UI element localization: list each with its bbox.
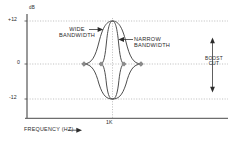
arrowhead-frequency [76,128,82,133]
arrowhead-boost-up [210,38,215,44]
annotation-narrow-bandwidth: NARROW BANDWIDTH [134,36,170,48]
annotation-wide-bandwidth: WIDE BANDWIDTH [59,26,95,38]
y-tick-label-minus12: -12 [9,95,17,101]
eq-response-diagram: dB +12 0 -12 1K FREQUENCY (HZ) WIDE BAND… [0,0,233,141]
y-axis-unit-label: dB [29,6,35,11]
node-marker-wide-left [82,62,87,67]
arrowhead-cut-down [210,87,215,93]
node-marker-wide-right [139,62,144,67]
x-axis-label: FREQUENCY (HZ) [24,127,74,133]
annotation-boost-cut: BOOST CUT [205,56,223,66]
y-tick-label-zero: 0 [17,60,20,66]
x-tick-label-1k: 1K [106,120,113,126]
arrowhead-narrow [118,37,124,42]
plot-canvas [0,0,233,141]
y-tick-label-plus12: +12 [8,17,17,23]
